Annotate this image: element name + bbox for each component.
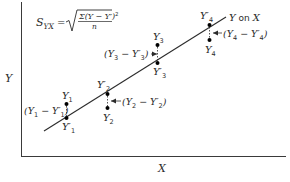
observed-label-4: Y4 [205, 44, 216, 58]
deviation-label-3: (Y3 − Y′3) [104, 48, 149, 62]
predicted-label-2: Y′2 [97, 79, 110, 93]
formula-numerator: Σ(Y − Y′) [78, 12, 115, 21]
observed-point-2 [106, 106, 110, 110]
formula-equals: = [57, 17, 65, 28]
predicted-label-4: Y′4 [200, 10, 213, 24]
svg-text:Σ(Y − Y′)2: Σ(Y − Y′)2 [78, 11, 119, 21]
formula-lhs-sub: YX [44, 22, 55, 31]
svg-text:SYX: SYX [36, 16, 54, 31]
formula-denominator: n [92, 22, 97, 31]
regression-line [44, 17, 226, 131]
formula-numerator-exp: 2 [115, 11, 119, 17]
observed-label-1: Y1 [62, 90, 73, 104]
x-axis-label: X [157, 162, 167, 175]
observed-point-4 [208, 38, 212, 42]
point-group-3: Y3 Y′3 (Y3 − Y′3) [104, 31, 166, 80]
predicted-label-3: Y′3 [153, 66, 166, 80]
y-axis-label: Y [5, 72, 14, 85]
deviation-label-1: (Y1 − Y′1) [24, 105, 69, 119]
predicted-point-1 [65, 116, 69, 120]
point-group-2: Y′2 Y2 (Y2 − Y′2) [97, 79, 167, 126]
observed-label-2: Y2 [103, 112, 114, 126]
deviation-label-2: (Y2 − Y′2) [122, 96, 167, 110]
standard-error-formula: SYX = Σ(Y − Y′)2 n [36, 10, 119, 31]
regression-line-label: YonX [229, 12, 261, 23]
predicted-point-4 [208, 23, 212, 27]
observed-label-3: Y3 [153, 31, 164, 45]
predicted-label-1: Y′1 [62, 121, 75, 135]
predicted-point-3 [156, 61, 160, 65]
regression-diagram: Y X SYX = Σ(Y − Y′)2 n YonX Y1 Y′1 (Y1 −… [0, 0, 290, 182]
predicted-point-2 [106, 92, 110, 96]
deviation-label-4: (Y4 − Y′4) [223, 28, 268, 42]
